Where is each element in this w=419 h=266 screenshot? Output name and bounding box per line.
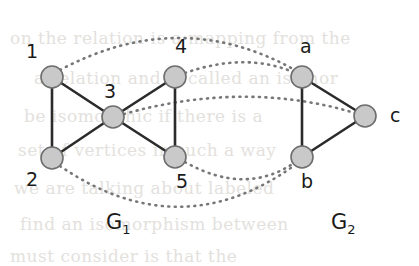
graph-label-subscript: 1 <box>122 222 130 237</box>
graph-node-2 <box>41 147 63 169</box>
node-label-c: c <box>390 106 400 125</box>
node-label-a: a <box>300 37 312 56</box>
node-label-1: 1 <box>26 42 38 61</box>
graph-node-5 <box>164 146 186 168</box>
graph-label-subscript: 2 <box>347 222 355 237</box>
mapping-edge-3-c <box>124 97 355 114</box>
graph-solid-edges <box>52 77 365 158</box>
graph-nodes <box>41 66 376 169</box>
graph-label-g2: G2 <box>331 212 356 236</box>
node-label-4: 4 <box>175 37 187 56</box>
graph-node-4 <box>164 66 186 88</box>
node-label-b: b <box>301 172 313 191</box>
mapping-edge-5-b <box>185 162 294 179</box>
graph-node-b <box>291 146 313 168</box>
mapping-edge-4-a <box>185 62 293 73</box>
node-label-5: 5 <box>176 172 188 191</box>
node-label-2: 2 <box>26 170 38 189</box>
graph-label-base: G <box>106 210 122 234</box>
graph-node-3 <box>102 106 124 128</box>
graph-label-g1: G1 <box>106 212 131 236</box>
node-label-3: 3 <box>104 82 116 101</box>
graph-node-1 <box>41 66 63 88</box>
graph-node-c <box>354 105 376 127</box>
graph-node-a <box>291 66 313 88</box>
graph-label-base: G <box>331 210 347 234</box>
